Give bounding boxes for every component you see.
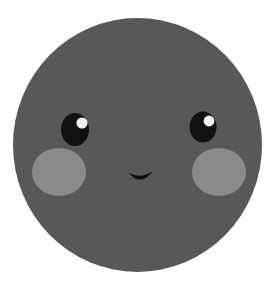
face-shape bbox=[13, 18, 262, 272]
right-eye bbox=[190, 112, 217, 143]
kawaii-face-illustration bbox=[0, 0, 275, 289]
right-eye-highlight-icon bbox=[204, 116, 215, 127]
artwork-canvas: Kawaii Smiling Face Round dark gray cart… bbox=[0, 0, 275, 289]
left-eye-highlight-icon bbox=[76, 117, 87, 128]
left-eye bbox=[61, 113, 89, 146]
right-cheek-blush bbox=[192, 148, 246, 196]
left-cheek-blush bbox=[32, 148, 86, 196]
